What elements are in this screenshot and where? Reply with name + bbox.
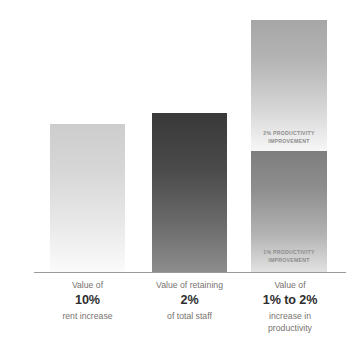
x-axis-baseline [34, 272, 346, 273]
bar-retaining-staff-fill [152, 113, 227, 272]
category-rent-value: 10% [34, 291, 141, 309]
bar-segment-2-percent-productivity[interactable]: 2% PRODUCTIVITY IMPROVEMENT [251, 20, 327, 151]
bar-chart: DOLLARS 2% PRODUCTIVITY IMPROVEMENT 1% P… [0, 0, 352, 347]
segment-label-1-percent: 1% PRODUCTIVITY IMPROVEMENT [251, 248, 327, 264]
segment-label-2-percent: 2% PRODUCTIVITY IMPROVEMENT [251, 129, 327, 145]
category-label-retaining-staff: Value of retaining 2% of total staff [136, 279, 243, 322]
category-productivity-value: 1% to 2% [235, 291, 345, 309]
bar-rent-increase[interactable] [50, 124, 125, 272]
category-label-productivity: Value of 1% to 2% increase in productivi… [235, 279, 345, 334]
category-rent-line3: rent increase [34, 310, 141, 322]
bar-segment-1-percent-productivity[interactable]: 1% PRODUCTIVITY IMPROVEMENT [251, 151, 327, 272]
category-productivity-line1: Value of [235, 279, 345, 291]
category-staff-line1: Value of retaining [136, 279, 243, 291]
category-label-rent-increase: Value of 10% rent increase [34, 279, 141, 322]
bar-rent-increase-fill [50, 124, 125, 272]
bar-productivity[interactable]: 2% PRODUCTIVITY IMPROVEMENT 1% PRODUCTIV… [251, 20, 327, 272]
category-productivity-line4: productivity [235, 322, 345, 334]
category-staff-value: 2% [136, 291, 243, 309]
category-productivity-line3: increase in [235, 310, 345, 322]
category-staff-line3: of total staff [136, 310, 243, 322]
category-rent-line1: Value of [34, 279, 141, 291]
bar-retaining-staff[interactable] [152, 113, 227, 272]
